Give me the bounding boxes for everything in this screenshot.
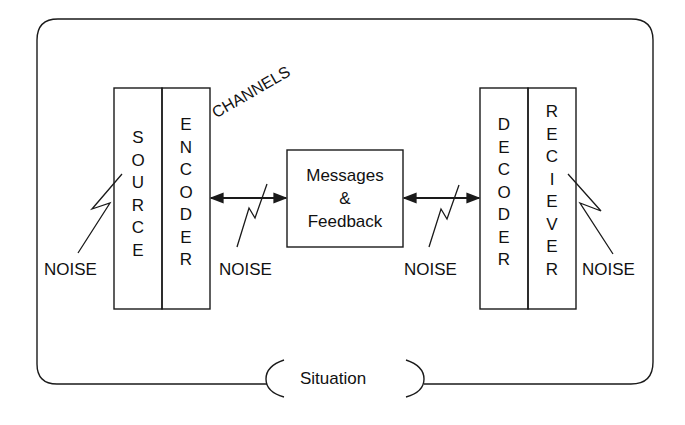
decoder-letter: R <box>498 249 510 272</box>
receiver-letter: R <box>546 259 558 282</box>
noise-label-channel-left: NOISE <box>219 261 272 278</box>
situation-label: Situation <box>300 369 366 389</box>
encoder-letter: N <box>180 137 192 160</box>
source-letter: C <box>132 217 144 240</box>
source-letter: O <box>131 150 144 173</box>
situation-bracket-right <box>406 360 424 397</box>
situation-bracket-left <box>266 360 284 397</box>
decoder-letter: E <box>498 137 509 160</box>
decoder-letter: E <box>498 227 509 250</box>
decoder-label: D E C O D E R <box>480 114 528 272</box>
ampersand-text: & <box>339 187 350 210</box>
receiver-label: R E C I E V E R <box>528 101 576 281</box>
encoder-label: E N C O D E R <box>162 114 210 272</box>
source-letter: R <box>132 195 144 218</box>
receiver-letter: C <box>546 146 558 169</box>
receiver-letter: E <box>546 124 557 147</box>
source-letter: U <box>132 172 144 195</box>
receiver-letter: V <box>546 214 557 237</box>
encoder-letter: O <box>179 182 192 205</box>
encoder-letter: E <box>180 227 191 250</box>
decoder-letter: C <box>498 159 510 182</box>
noise-label-receiver: NOISE <box>582 261 635 278</box>
messages-text: Messages <box>306 164 383 187</box>
receiver-letter: E <box>546 236 557 259</box>
noise-label-source: NOISE <box>44 261 97 278</box>
encoder-letter: E <box>180 114 191 137</box>
decoder-letter: D <box>498 204 510 227</box>
noise-bolt-channel-left-icon <box>237 184 267 247</box>
encoder-letter: R <box>180 249 192 272</box>
source-letter: E <box>132 240 143 263</box>
receiver-letter: E <box>546 191 557 214</box>
feedback-text: Feedback <box>308 210 383 233</box>
source-label: S O U R C E <box>114 127 162 262</box>
messages-feedback-label: Messages & Feedback <box>287 150 403 247</box>
encoder-letter: C <box>180 159 192 182</box>
source-letter: S <box>132 127 143 150</box>
encoder-letter: D <box>180 204 192 227</box>
receiver-letter: I <box>550 169 555 192</box>
receiver-letter: R <box>546 101 558 124</box>
noise-bolt-channel-right-icon <box>429 185 459 247</box>
decoder-letter: O <box>497 182 510 205</box>
noise-label-channel-right: NOISE <box>404 261 457 278</box>
decoder-letter: D <box>498 114 510 137</box>
